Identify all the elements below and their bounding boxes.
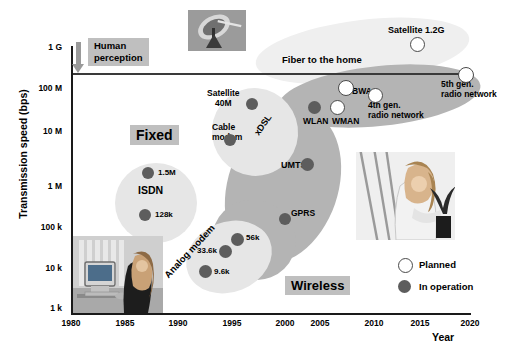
wireless-label: Wireless [285, 276, 350, 295]
point-1-5m-label: 1.5M [158, 169, 176, 177]
x-tick-1980: 1980 [51, 318, 91, 328]
woman-at-computer-photo [73, 236, 163, 313]
y-tick-1k: 1 k [50, 303, 62, 313]
legend-label-planned: Planned [419, 259, 456, 270]
data-point-5th-gen-radio-network[interactable] [458, 67, 474, 83]
isdn-label: ISDN [138, 185, 163, 196]
data-point-gprs[interactable] [279, 213, 291, 225]
human-perception-label: Human perception [88, 38, 149, 66]
woman-with-phone-image [356, 152, 455, 240]
y-tick-1m: 1 M [48, 181, 62, 191]
fiber-to-the-home-label: Fiber to the home [282, 55, 362, 65]
fixed-label: Fixed [130, 125, 179, 145]
point-128k-label: 128k [155, 211, 173, 219]
legend-label-in-operation: In operation [419, 281, 473, 292]
legend-marker-in-operation [398, 280, 411, 293]
point-56k-label: 56k [246, 234, 259, 242]
wman-label: WMAN [332, 117, 359, 126]
y-tick-1g: 1 G [48, 42, 62, 52]
data-point-wman[interactable] [330, 100, 345, 115]
y-tick-100m: 100 M [38, 83, 62, 93]
data-point-56k[interactable] [231, 233, 244, 246]
human-perception-threshold-line [73, 73, 471, 75]
x-tick-1990: 1990 [158, 318, 198, 328]
4th-gen-radio-network-label: 4th gen. radio network [368, 100, 424, 120]
data-point-satellite-1-2g[interactable] [410, 37, 425, 52]
wlan-label: WLAN [303, 117, 329, 126]
y-tick-10k: 10 k [45, 263, 62, 273]
human-perception-arrow-head [72, 64, 84, 73]
x-axis-title: Year [432, 331, 454, 343]
data-point-4th-gen-radio-network[interactable] [368, 88, 383, 103]
satellite-40m-label: Satellite 40M [207, 88, 240, 108]
data-point-1-5m[interactable] [142, 167, 154, 179]
satellite-dish-icon [188, 10, 246, 51]
data-point-wlan[interactable] [308, 101, 321, 114]
y-axis-title: Transmission speed (bps) [17, 69, 29, 239]
satellite-1-2g-label: Satellite 1.2G [388, 26, 445, 35]
point-33-6k-label: 33.6k [197, 247, 217, 255]
data-point-cable-modem[interactable] [224, 134, 236, 146]
data-point-bwa[interactable] [338, 80, 354, 96]
x-tick-1995: 1995 [212, 318, 252, 328]
point-9-6k-label: 9.6k [214, 268, 230, 276]
data-point-33-6k[interactable] [219, 245, 232, 258]
x-tick-1985: 1985 [105, 318, 145, 328]
cluster-isdn [115, 163, 197, 243]
data-point-9-6k[interactable] [199, 265, 212, 278]
y-tick-100k: 100 k [41, 222, 62, 232]
gprs-label: GPRS [291, 209, 315, 218]
chart-canvas: 1 G 100 M 10 M 1 M 100 k 10 k 1 k 1980 1… [0, 0, 509, 359]
x-tick-2020: 2020 [450, 318, 490, 328]
woman-at-computer-image [73, 236, 163, 313]
y-tick-10m: 10 M [43, 126, 62, 136]
legend-marker-planned [398, 258, 413, 273]
satellite-dish-photo [188, 10, 246, 51]
x-axis-line [71, 313, 471, 315]
x-tick-2015: 2015 [400, 318, 440, 328]
data-point-umts[interactable] [301, 158, 314, 171]
woman-with-mobile-phone-photo [356, 152, 455, 240]
data-point-satellite-40m[interactable] [246, 98, 258, 110]
x-tick-2005: 2005 [300, 318, 340, 328]
data-point-128k[interactable] [139, 209, 151, 221]
x-tick-2000: 2000 [265, 318, 305, 328]
x-tick-2010: 2010 [354, 318, 394, 328]
